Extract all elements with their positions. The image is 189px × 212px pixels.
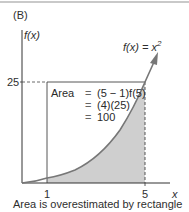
- equals-sign: =: [85, 111, 97, 123]
- area-value: (4)(25): [97, 99, 130, 111]
- equals-sign: =: [85, 99, 97, 111]
- function-label: f(x) = x2: [123, 41, 161, 53]
- arrowhead-icon: [150, 52, 158, 65]
- area-key: [51, 111, 85, 123]
- area-key: Area: [51, 87, 85, 99]
- area-row: Area = (5 − 1)f(5): [51, 87, 146, 99]
- area-value: (5 − 1)f(5): [97, 87, 146, 99]
- caption: Area is overestimated by rectangle: [13, 198, 182, 210]
- function-label-exponent: 2: [157, 39, 161, 48]
- area-row: = (4)(25): [51, 99, 146, 111]
- equals-sign: =: [85, 87, 97, 99]
- area-row: = 100: [51, 111, 146, 123]
- area-key: [51, 99, 85, 111]
- panel-label: (B): [13, 9, 28, 21]
- y-tick-label-25: 25: [7, 76, 19, 88]
- area-calculation: Area = (5 − 1)f(5) = (4)(25) = 100: [51, 87, 146, 123]
- y-axis-label: f(x): [24, 29, 40, 41]
- function-label-base: f(x) = x: [123, 41, 157, 53]
- area-value: 100: [97, 111, 115, 123]
